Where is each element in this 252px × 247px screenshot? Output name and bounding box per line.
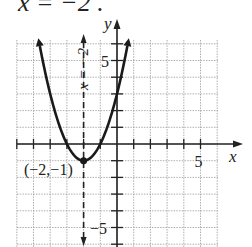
- svg-text:y: y: [102, 14, 112, 33]
- parabola-graph: xy55−5(−2,−1)x = −2: [0, 0, 252, 247]
- svg-text:x = −2: x = −2: [75, 48, 91, 91]
- axis-labels: xy55−5(−2,−1)x = −2: [24, 14, 237, 237]
- axes: [17, 19, 243, 247]
- svg-text:(−2,−1): (−2,−1): [24, 161, 73, 179]
- svg-text:5: 5: [101, 53, 109, 70]
- svg-text:−5: −5: [90, 220, 107, 237]
- svg-text:x: x: [228, 147, 237, 166]
- svg-text:5: 5: [195, 153, 203, 170]
